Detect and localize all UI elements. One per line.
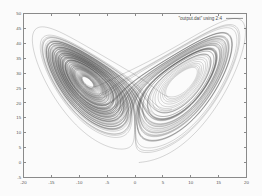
y-tick-label: 30: [16, 71, 21, 76]
x-tick-label: 10: [188, 180, 193, 185]
x-tick-label: -5: [105, 180, 109, 185]
y-tick-label: 15: [16, 115, 21, 120]
x-tick-label: -10: [76, 180, 83, 185]
legend-label: "output.dat" using 2:4: [178, 16, 222, 21]
y-tick-label: 40: [16, 41, 21, 46]
y-tick-label: 50: [16, 11, 21, 16]
y-tick-label: -5: [17, 175, 21, 180]
plot-window: -20-15-10-505101520 -5051015202530354045…: [0, 0, 262, 196]
y-tick-label: 20: [16, 101, 21, 106]
y-tick-label: 35: [16, 56, 21, 61]
x-tick-label: -15: [48, 180, 55, 185]
x-tick-label: -20: [20, 180, 27, 185]
y-tick-label: 10: [16, 130, 21, 135]
y-tick-label: 45: [16, 26, 21, 31]
y-tick-label: 25: [16, 86, 21, 91]
x-tick-label: 15: [216, 180, 221, 185]
x-tick-label: 20: [244, 180, 249, 185]
lorenz-attractor-chart: -20-15-10-505101520 -5051015202530354045…: [0, 0, 262, 196]
